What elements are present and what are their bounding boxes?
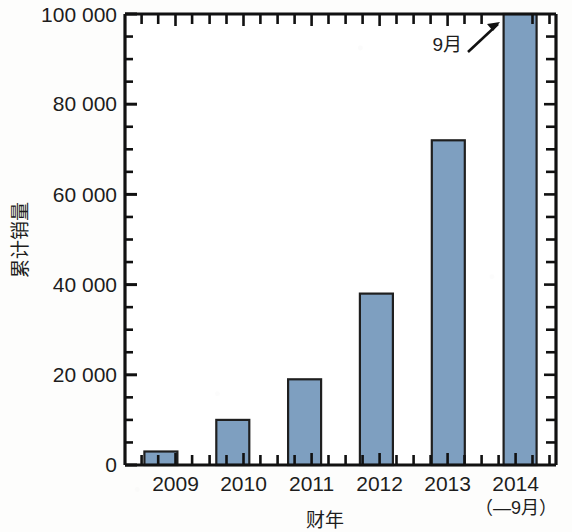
x-axis-tick-labels: 2009 2010 2011 2012 2013 2014 （—9月） — [152, 472, 557, 518]
x-tick-label-2013: 2013 — [424, 472, 471, 495]
annotation-label: 9月 — [432, 34, 462, 55]
y-tick-label-80000: 80 000 — [53, 92, 117, 115]
bar-2014 — [504, 14, 537, 465]
bar-2009 — [144, 452, 177, 466]
x-tick-label-2011: 2011 — [289, 472, 334, 495]
y-axis-tick-labels: 0 20 000 40 000 60 000 80 000 100 000 — [41, 3, 117, 476]
x-tick-label-2012: 2012 — [356, 472, 403, 495]
x-tick-label-2009: 2009 — [152, 472, 199, 495]
bar-2013 — [432, 140, 465, 465]
y-tick-label-60000: 60 000 — [53, 183, 117, 206]
x-axis-title: 财年 — [306, 510, 344, 531]
x-tick-label-2014: 2014 — [492, 472, 539, 495]
y-axis-title: 累计销量 — [10, 202, 31, 278]
bar-2012 — [360, 294, 393, 465]
y-tick-label-0: 0 — [105, 453, 117, 476]
y-tick-label-20000: 20 000 — [53, 363, 117, 386]
plot-area-background — [125, 14, 556, 465]
y-tick-label-40000: 40 000 — [53, 273, 117, 296]
bar-2011 — [288, 379, 321, 465]
bar-chart-svg: 0 20 000 40 000 60 000 80 000 100 000 20… — [0, 0, 572, 532]
y-tick-label-100000: 100 000 — [41, 3, 117, 26]
chart-figure: 0 20 000 40 000 60 000 80 000 100 000 20… — [0, 0, 572, 532]
x-tick-sublabel-2014: （—9月） — [475, 498, 557, 518]
x-tick-label-2010: 2010 — [220, 472, 267, 495]
